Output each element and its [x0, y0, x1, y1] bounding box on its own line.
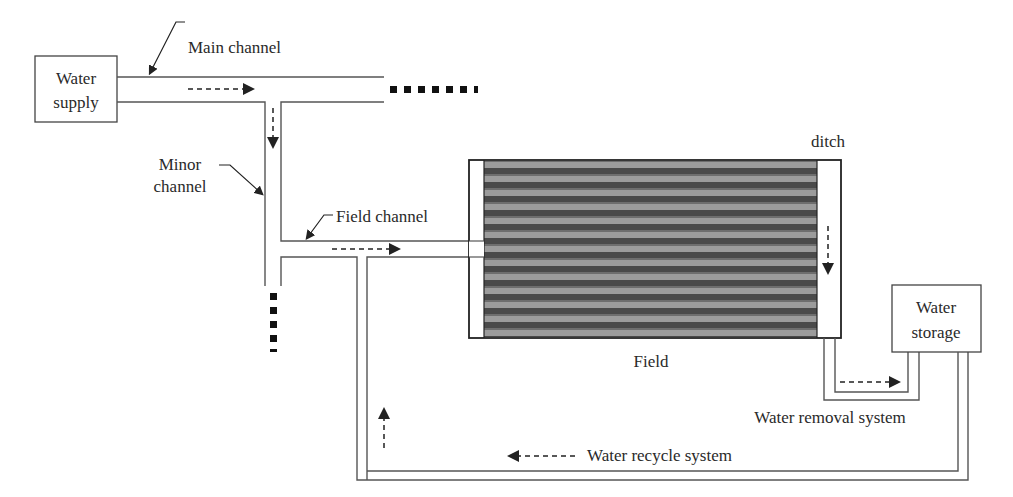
main-channel-label: Main channel: [188, 38, 281, 57]
water-supply-label-2: supply: [53, 93, 99, 112]
minor-channel-continuation-dots: [270, 293, 277, 352]
field-channel-pointer: [307, 215, 333, 238]
main-channel-continuation-dots: [390, 86, 478, 93]
water-storage-node: Water storage: [892, 285, 981, 352]
field-label: Field: [634, 352, 669, 371]
recycle-system-label: Water recycle system: [587, 446, 732, 465]
main-channel-pointer: [150, 22, 185, 73]
minor-channel-label-1: Minor: [159, 155, 202, 174]
removal-system-label: Water removal system: [754, 408, 906, 427]
water-storage-label-2: storage: [911, 323, 960, 342]
water-supply-node: Water supply: [35, 56, 117, 122]
main-channel: Main channel: [117, 22, 484, 286]
irrigation-diagram: Water supply Main channel Minor channel: [0, 0, 1013, 497]
field-furrows: [484, 161, 817, 337]
minor-channel-pointer: [219, 165, 262, 194]
field: Field: [469, 160, 841, 371]
field-channel-label: Field channel: [336, 207, 428, 226]
water-storage-label-1: Water: [916, 298, 956, 317]
water-supply-label-1: Water: [56, 69, 96, 88]
minor-channel-label-2: channel: [154, 177, 207, 196]
ditch-label: ditch: [811, 132, 845, 151]
field-channel: Field channel: [307, 207, 484, 480]
